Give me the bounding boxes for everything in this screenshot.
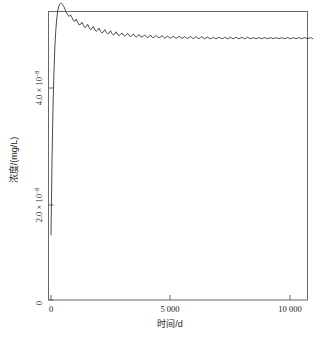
y-tick-label-2e-8-group: 2.0 × 10−8 — [34, 188, 44, 223]
y-axis-title: 浓度/(mg/L) — [8, 137, 19, 184]
x-axis-ticks — [51, 295, 290, 300]
concentration-curve — [51, 3, 313, 235]
y-tick-label-4e-8-group: 4.0 × 10−8 — [34, 71, 44, 106]
x-axis-title: 时间/d — [157, 318, 183, 329]
chart-container: 0 2.0 × 10−8 4.0 × 10−8 浓度/(mg/L) 0 5 00… — [0, 0, 321, 338]
y-tick-label-0: 0 — [34, 301, 44, 305]
x-tick-label-5000: 5 000 — [160, 304, 179, 314]
x-tick-label-10000: 10 000 — [278, 304, 301, 314]
x-tick-label-0: 0 — [49, 304, 53, 314]
plot-frame — [49, 12, 308, 301]
y-tick-label-4e-8: 4.0 × 10−8 — [34, 71, 44, 106]
y-tick-label-2e-8: 2.0 × 10−8 — [34, 188, 44, 223]
concentration-vs-time-chart: 0 2.0 × 10−8 4.0 × 10−8 浓度/(mg/L) 0 5 00… — [0, 0, 321, 338]
